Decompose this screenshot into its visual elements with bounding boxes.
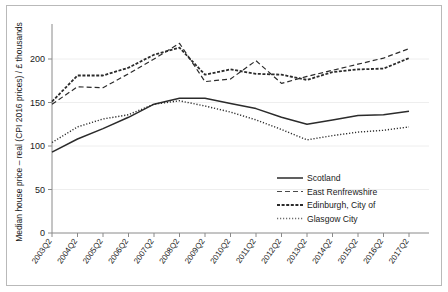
chart-legend: ScotlandEast RenfrewshireEdinburgh, City… [277, 173, 377, 224]
line-chart: 050100150200 2003Q22004Q22005Q22006Q2200… [0, 0, 448, 292]
legend-label: Glasgow City [307, 214, 358, 224]
y-axis-title-text: Median house price – real (CPI 2016 pric… [14, 22, 24, 242]
x-tick-label: 2014Q2 [310, 237, 334, 266]
x-tick-label: 2007Q2 [132, 237, 156, 266]
legend-label: Scotland [307, 173, 341, 183]
y-tick-label: 50 [35, 185, 45, 195]
x-tick-label: 2009Q2 [183, 237, 207, 266]
gridlines [52, 59, 429, 190]
x-tick-label: 2012Q2 [259, 237, 283, 266]
series-line [52, 98, 409, 152]
y-tick-label: 200 [30, 54, 45, 64]
legend-label: Edinburgh, City of [307, 200, 376, 210]
series-line [52, 101, 409, 143]
x-tick-label: 2004Q2 [55, 237, 79, 266]
x-tick-label: 2013Q2 [285, 237, 309, 266]
y-axis-title: Median house price – real (CPI 2016 pric… [14, 22, 24, 242]
tick-marks [48, 59, 409, 237]
y-tick-label: 150 [30, 98, 45, 108]
x-tick-label: 2011Q2 [234, 237, 258, 265]
legend-label: East Renfrewshire [307, 187, 377, 197]
x-tick-label: 2017Q2 [387, 237, 411, 266]
series-line [52, 48, 409, 102]
x-tick-label: 2016Q2 [361, 237, 385, 266]
y-tick-label: 100 [30, 141, 45, 151]
x-tick-label: 2010Q2 [208, 237, 232, 266]
x-tick-label: 2008Q2 [157, 237, 181, 266]
x-tick-labels: 2003Q22004Q22005Q22006Q22007Q22008Q22009… [30, 237, 411, 266]
chart-figure: 050100150200 2003Q22004Q22005Q22006Q2200… [0, 0, 448, 292]
x-tick-label: 2006Q2 [106, 237, 130, 266]
x-tick-label: 2015Q2 [336, 237, 360, 266]
data-series [52, 43, 409, 152]
y-tick-labels: 050100150200 [30, 54, 45, 238]
x-tick-label: 2003Q2 [30, 237, 54, 266]
y-tick-label: 0 [40, 228, 45, 238]
x-tick-label: 2005Q2 [81, 237, 105, 266]
series-line [52, 43, 409, 104]
